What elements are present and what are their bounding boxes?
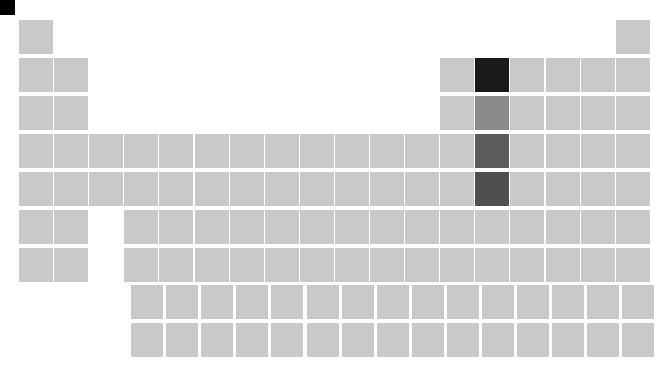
fblock-grid: LaCePrNdPmSmEuGdTbDyHoErTmYbLuAcThPaUNpP… [0,0,665,368]
element-cell-fm: Fm [517,323,549,357]
element-cell-md: Md [552,323,584,357]
element-cell-la: La [131,285,163,319]
element-cell-th: Th [166,323,198,357]
element-cell-pr: Pr [201,285,233,319]
element-cell-bk: Bk [412,323,444,357]
element-cell-pu: Pu [307,323,339,357]
element-cell-ac: Ac [131,323,163,357]
element-cell-np: Np [271,323,303,357]
element-cell-ce: Ce [166,285,198,319]
element-cell-cm: Cm [377,323,409,357]
element-cell-no: No [587,323,619,357]
element-cell-tm: Tm [552,285,584,319]
element-cell-es: Es [482,323,514,357]
element-cell-dy: Dy [447,285,479,319]
element-cell-cf: Cf [447,323,479,357]
element-cell-pm: Pm [271,285,303,319]
element-cell-am: Am [342,323,374,357]
element-cell-pa: Pa [201,323,233,357]
element-cell-lr: Lr [622,323,654,357]
periodic-table-heatmap: HHeLiBeBCNOFNeNaMgAlSiPSClArKCaScTiVCrMn… [0,0,665,368]
element-cell-eu: Eu [342,285,374,319]
element-cell-lu: Lu [622,285,654,319]
element-cell-er: Er [517,285,549,319]
element-cell-sm: Sm [307,285,339,319]
element-cell-ho: Ho [482,285,514,319]
element-cell-gd: Gd [377,285,409,319]
element-cell-yb: Yb [587,285,619,319]
element-cell-u: U [236,323,268,357]
element-cell-nd: Nd [236,285,268,319]
element-cell-tb: Tb [412,285,444,319]
